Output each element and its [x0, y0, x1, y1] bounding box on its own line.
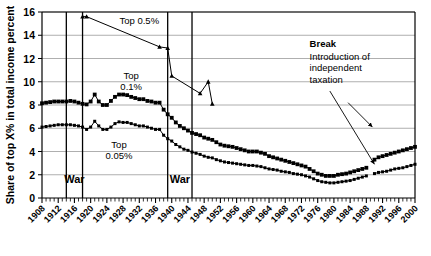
- series-marker: [401, 148, 405, 152]
- series-marker: [365, 174, 368, 177]
- series-marker: [142, 124, 145, 127]
- xtick-label-1948: 1948: [188, 203, 209, 224]
- xtick-label-1932: 1932: [123, 203, 144, 224]
- series-marker: [320, 173, 324, 177]
- series-marker: [65, 123, 68, 126]
- series-marker: [328, 174, 332, 178]
- annotation-break-l3: taxation: [310, 74, 343, 85]
- ytick-label-8: 8: [29, 99, 35, 111]
- series-marker: [56, 100, 60, 104]
- series-marker: [276, 169, 279, 172]
- y-axis-title: Share of top X% in total income percent: [4, 5, 16, 204]
- series-marker: [279, 158, 283, 162]
- series-marker: [166, 112, 170, 116]
- xtick-label-1956: 1956: [220, 203, 241, 224]
- series-marker: [166, 137, 169, 140]
- annotation-break-l1: Introduction of: [310, 51, 371, 62]
- series-marker: [68, 99, 72, 103]
- series-marker: [48, 100, 52, 104]
- series-marker: [332, 174, 336, 178]
- series-marker: [291, 161, 295, 165]
- series-marker: [308, 167, 312, 171]
- series-marker: [397, 167, 400, 170]
- series-marker: [300, 173, 303, 176]
- series-marker: [414, 163, 417, 166]
- xtick-label-1964: 1964: [253, 203, 274, 224]
- series-marker: [174, 143, 177, 146]
- series-marker: [247, 150, 251, 154]
- series-marker: [170, 140, 173, 143]
- series-marker: [288, 171, 291, 174]
- series-marker: [191, 151, 194, 154]
- series-marker: [267, 154, 271, 158]
- xtick-label-1952: 1952: [204, 203, 225, 224]
- series-marker: [296, 162, 300, 166]
- annotation-war-2: War: [170, 173, 191, 185]
- ytick-label-4: 4: [29, 146, 35, 158]
- series-marker: [186, 129, 190, 133]
- xtick-label-1928: 1928: [107, 203, 128, 224]
- series-marker: [243, 148, 247, 152]
- ytick-label-10: 10: [23, 76, 35, 88]
- series-marker: [195, 152, 198, 155]
- income-share-line-chart: 0246810121416Share of top X% in total in…: [0, 0, 431, 256]
- annotation-war-1: War: [64, 173, 85, 185]
- series-marker: [182, 126, 186, 130]
- series-marker: [336, 181, 339, 184]
- series-marker: [275, 157, 279, 161]
- xtick-label-1984: 1984: [334, 203, 355, 224]
- series-marker: [64, 100, 68, 104]
- series-marker: [263, 166, 266, 169]
- series-marker: [385, 153, 389, 157]
- series-marker: [227, 161, 230, 164]
- series-marker: [251, 150, 255, 154]
- series-marker: [178, 145, 181, 148]
- series-marker: [393, 167, 396, 170]
- series-marker: [44, 101, 48, 105]
- series-marker: [348, 171, 352, 175]
- series-marker: [206, 137, 210, 141]
- xtick-label-1980: 1980: [318, 203, 339, 224]
- xtick-label-1916: 1916: [58, 203, 79, 224]
- series-marker: [409, 164, 412, 167]
- series-marker: [312, 169, 316, 173]
- series-marker: [324, 174, 328, 178]
- series-marker: [118, 120, 121, 123]
- series-marker: [146, 99, 150, 103]
- series-marker: [182, 148, 185, 151]
- series-marker: [129, 95, 133, 99]
- series-marker: [283, 159, 287, 163]
- series-marker: [243, 163, 246, 166]
- series-marker: [344, 172, 348, 176]
- series-marker: [53, 124, 56, 127]
- series-marker: [141, 97, 145, 101]
- series-marker: [397, 150, 401, 154]
- series-marker: [292, 172, 295, 175]
- series-marker: [101, 128, 104, 131]
- series-marker: [272, 168, 275, 171]
- series-marker: [109, 126, 112, 129]
- series-label-top-0-1--line2: 0.1%: [120, 81, 142, 92]
- series-marker: [364, 166, 368, 170]
- series-marker: [405, 147, 409, 151]
- series-marker: [89, 126, 92, 129]
- series-marker: [300, 164, 304, 168]
- ytick-label-16: 16: [23, 6, 35, 18]
- series-marker: [280, 170, 283, 173]
- series-marker: [385, 170, 388, 173]
- series-marker: [93, 120, 96, 123]
- series-marker: [121, 93, 125, 97]
- series-marker: [138, 124, 141, 127]
- ytick-label-6: 6: [29, 122, 35, 134]
- series-marker: [214, 140, 218, 144]
- series-marker: [40, 101, 44, 105]
- series-marker: [235, 146, 239, 150]
- series-marker: [45, 125, 48, 128]
- ytick-label-0: 0: [29, 192, 35, 204]
- series-marker: [247, 164, 250, 167]
- series-marker: [162, 108, 166, 112]
- xtick-label-1968: 1968: [269, 203, 290, 224]
- series-marker: [105, 128, 108, 131]
- series-marker: [150, 100, 154, 104]
- series-marker: [125, 93, 129, 97]
